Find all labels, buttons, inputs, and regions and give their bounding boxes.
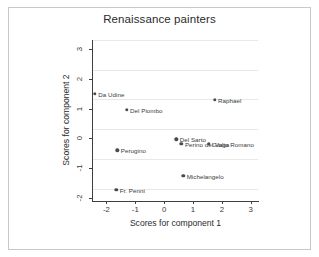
x-axis-tick	[222, 201, 223, 204]
page-title: Renaissance painters	[0, 13, 319, 25]
scatter-point-label: Perugino	[121, 147, 146, 154]
gridline-y	[92, 70, 258, 71]
scatter-point-label: Del Piombo	[130, 107, 162, 114]
y-axis-tick-label: 3	[75, 44, 84, 54]
x-axis-title: Scores for component 1	[92, 218, 259, 228]
scatter-point-label: Raphael	[218, 96, 241, 103]
y-axis-tick-label: 1	[75, 104, 84, 114]
x-axis-tick	[106, 201, 107, 204]
gridline-y	[92, 40, 258, 41]
gridline-y	[92, 129, 258, 130]
y-axis-tick	[89, 49, 92, 50]
x-axis-tick-label: 0	[162, 205, 166, 214]
plot-region	[92, 40, 258, 201]
y-axis-tick-label: -1	[75, 163, 84, 173]
y-axis-tick-label: 2	[75, 74, 84, 84]
y-axis-tick	[89, 79, 92, 80]
y-axis-tick-label: 0	[75, 133, 84, 143]
gridline-y	[92, 159, 258, 160]
x-axis-tick	[193, 201, 194, 204]
y-axis-line	[92, 40, 93, 201]
y-axis-title: Scores for component 2	[61, 74, 71, 165]
y-axis-tick-label: -2	[75, 193, 84, 203]
scatter-point-label: Da Udine	[98, 90, 124, 97]
x-axis-line	[92, 201, 259, 202]
y-axis-tick	[89, 109, 92, 110]
x-axis-tick-label: -1	[132, 205, 139, 214]
x-axis-tick-label: -2	[103, 205, 110, 214]
x-axis-tick	[251, 201, 252, 204]
scatter-point-label: Michelangelo	[187, 172, 224, 179]
y-axis-tick	[89, 168, 92, 169]
scatter-point-label: Fr. Penni	[120, 186, 145, 193]
graph-canvas: Renaissance painters Da UdineDel PiomboR…	[0, 0, 319, 257]
x-axis-tick-label: 3	[249, 205, 253, 214]
y-axis-tick	[89, 198, 92, 199]
x-axis-tick	[135, 201, 136, 204]
x-axis-tick	[164, 201, 165, 204]
x-axis-tick-label: 1	[191, 205, 195, 214]
x-axis-tick-label: 2	[220, 205, 224, 214]
scatter-point-label: Giulio Romano	[212, 140, 254, 147]
y-axis-tick	[89, 138, 92, 139]
